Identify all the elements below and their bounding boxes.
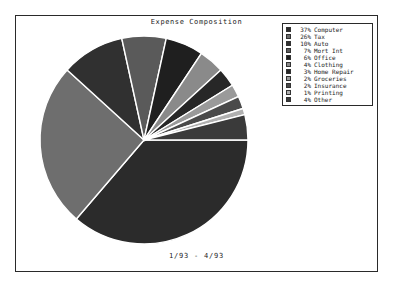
chart-legend: 37%Computer26%Tax10%Auto7%Mort Int6%Offi…	[282, 23, 373, 106]
legend-item-percent: 26%	[294, 33, 311, 40]
legend-swatch-icon	[286, 34, 291, 39]
legend-item: 26%Tax	[286, 33, 369, 40]
legend-item-label: Printing	[314, 89, 343, 96]
legend-item-percent: 4%	[294, 61, 311, 68]
legend-swatch-icon	[286, 55, 291, 60]
legend-item: 10%Auto	[286, 40, 369, 47]
legend-swatch-icon	[286, 90, 291, 95]
legend-item-label: Home Repair	[314, 68, 354, 75]
legend-item-percent: 6%	[294, 54, 311, 61]
legend-item-percent: 2%	[294, 82, 311, 89]
pie-slices	[40, 36, 248, 244]
legend-item: 2%Groceries	[286, 75, 369, 82]
legend-item-label: Tax	[314, 33, 325, 40]
legend-item-label: Mort Int	[314, 47, 343, 54]
legend-item-label: Office	[314, 54, 336, 61]
legend-item-percent: 3%	[294, 68, 311, 75]
legend-swatch-icon	[286, 76, 291, 81]
legend-item: 1%Printing	[286, 89, 369, 96]
legend-swatch-icon	[286, 62, 291, 67]
legend-item-percent: 4%	[294, 96, 311, 103]
legend-item-percent: 37%	[294, 26, 311, 33]
chart-period-caption: 1/93 - 4/93	[16, 252, 377, 260]
legend-item: 7%Mort Int	[286, 47, 369, 54]
legend-item-label: Computer	[314, 26, 343, 33]
pie-chart-svg	[36, 34, 252, 246]
legend-swatch-icon	[286, 41, 291, 46]
legend-swatch-icon	[286, 97, 291, 102]
legend-item-percent: 2%	[294, 75, 311, 82]
legend-item: 3%Home Repair	[286, 68, 369, 75]
legend-item-label: Groceries	[314, 75, 347, 82]
legend-item: 2%Insurance	[286, 82, 369, 89]
legend-swatch-icon	[286, 27, 291, 32]
legend-item-percent: 10%	[294, 40, 311, 47]
legend-item-label: Clothing	[314, 61, 343, 68]
chart-frame: Expense Composition 37%Computer26%Tax10%…	[15, 15, 378, 272]
legend-item-label: Auto	[314, 40, 328, 47]
legend-item-label: Insurance	[314, 82, 347, 89]
legend-swatch-icon	[286, 69, 291, 74]
legend-item: 37%Computer	[286, 26, 369, 33]
pie-chart	[36, 34, 252, 246]
legend-item: 4%Clothing	[286, 61, 369, 68]
legend-item-label: Other	[314, 96, 332, 103]
legend-item-percent: 1%	[294, 89, 311, 96]
legend-item-percent: 7%	[294, 47, 311, 54]
legend-swatch-icon	[286, 83, 291, 88]
legend-item: 6%Office	[286, 54, 369, 61]
legend-swatch-icon	[286, 48, 291, 53]
legend-item: 4%Other	[286, 96, 369, 103]
